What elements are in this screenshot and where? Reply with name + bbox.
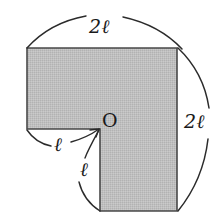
dimension-label-lower-notch: ℓ — [80, 160, 88, 179]
dimension-label-left-notch: ℓ — [54, 135, 62, 154]
dimension-arc-lower-notch-lower — [79, 182, 100, 211]
dimension-arc-top-right — [123, 17, 182, 49]
dimension-arc-left-notch — [27, 130, 51, 146]
dimension-label-top: 2ℓ — [89, 17, 110, 36]
dimension-arc-right-upper — [178, 48, 209, 108]
origin-label: O — [102, 111, 118, 130]
dimension-arc-right-lower — [178, 139, 208, 211]
figure-container: 2ℓ 2ℓ ℓ ℓ O — [0, 0, 223, 222]
dimension-label-right: 2ℓ — [184, 112, 205, 131]
dimension-arc-top-left — [27, 16, 86, 48]
dimension-leader-left-notch — [71, 129, 99, 142]
